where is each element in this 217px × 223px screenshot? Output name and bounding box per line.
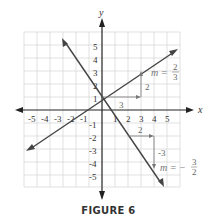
- svg-text:4: 4: [93, 55, 98, 65]
- svg-text:-1: -1: [89, 120, 97, 130]
- svg-text:-3: -3: [89, 146, 97, 156]
- rise-label-negative: -3: [158, 148, 166, 158]
- svg-text:-4: -4: [41, 114, 49, 124]
- rise-label-positive: 2: [145, 82, 150, 92]
- x-axis-arrow-right-icon: [186, 107, 194, 113]
- x-axis-label: x: [197, 104, 203, 115]
- arrowhead-icon: [149, 134, 154, 138]
- svg-text:m =: m =: [151, 67, 167, 78]
- svg-text:4: 4: [152, 114, 157, 124]
- svg-text:5: 5: [165, 114, 170, 124]
- svg-text:3: 3: [173, 72, 178, 82]
- arrowhead-icon: [136, 95, 141, 99]
- y-tick-labels: 5 4 3 2 1 -1 -2 -3 -4 -5: [89, 42, 98, 182]
- svg-text:-5: -5: [89, 172, 97, 182]
- run-label-positive: 3: [119, 100, 124, 110]
- x-axis-arrow-left-icon: [15, 107, 23, 113]
- run-label-negative: 2: [138, 125, 143, 135]
- svg-text:2: 2: [173, 62, 178, 72]
- svg-text:-2: -2: [89, 133, 97, 143]
- figure-caption: FIGURE 6: [0, 205, 217, 216]
- coordinate-plane: x y -5 -4 -3 -2 -1 1 2 3 4 5 5 4 3 2 1 -…: [0, 0, 217, 200]
- svg-text:3: 3: [93, 68, 98, 78]
- arrowhead-icon: [26, 144, 35, 151]
- svg-text:-4: -4: [89, 159, 97, 169]
- svg-text:-5: -5: [28, 114, 36, 124]
- svg-text:3: 3: [139, 114, 144, 124]
- x-tick-labels: -5 -4 -3 -2 -1 1 2 3 4 5: [28, 114, 170, 124]
- line-negative-slope: [62, 38, 164, 187]
- y-axis-arrow-down-icon: [99, 191, 105, 200]
- svg-text:5: 5: [93, 42, 98, 52]
- svg-text:m = −: m = −: [160, 162, 186, 173]
- slope-label-negative: m = − 3 2: [160, 157, 197, 177]
- svg-text:-3: -3: [54, 114, 62, 124]
- svg-text:2: 2: [192, 167, 197, 177]
- svg-text:1: 1: [93, 94, 98, 104]
- svg-text:3: 3: [192, 157, 197, 167]
- svg-text:-1: -1: [80, 114, 88, 124]
- y-axis-label: y: [98, 7, 104, 18]
- arrowhead-icon: [152, 164, 156, 169]
- svg-text:2: 2: [126, 114, 131, 124]
- y-axis-arrow-up-icon: [99, 18, 105, 27]
